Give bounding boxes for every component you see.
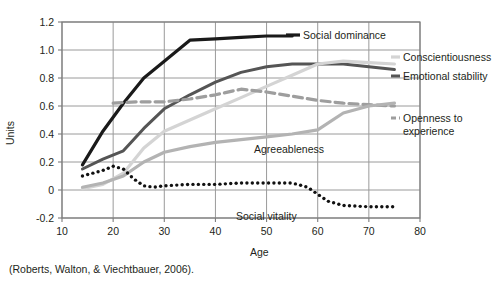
y-axis-title: Units bbox=[4, 121, 16, 145]
series-conscientiousness bbox=[82, 61, 394, 188]
social-vitality-label: Social vitality bbox=[236, 210, 297, 222]
figure-container: -0.200.20.40.60.81.01.2 1020304050607080… bbox=[0, 0, 498, 286]
series-annotation-emotional-stability: Emotional stability bbox=[391, 70, 488, 82]
x-tick-label: 60 bbox=[312, 225, 324, 237]
y-tick-label: 0.6 bbox=[39, 100, 54, 112]
y-tick-label: 1.0 bbox=[39, 44, 54, 56]
y-tick-label: 0.2 bbox=[39, 156, 54, 168]
x-tick-label: 20 bbox=[107, 225, 119, 237]
chart-canvas: -0.200.20.40.60.81.01.2 1020304050607080… bbox=[0, 0, 498, 286]
series-annotation-openness: Openness to experience bbox=[391, 112, 463, 137]
series-annotation-social-dominance: Social dominance bbox=[286, 29, 386, 41]
x-axis-tick-labels: 1020304050607080 bbox=[56, 225, 426, 237]
x-tick-label: 10 bbox=[56, 225, 68, 237]
series-annotation-social-vitality: Social vitality bbox=[236, 210, 297, 222]
x-tick-label: 70 bbox=[363, 225, 375, 237]
x-tick-label: 80 bbox=[414, 225, 426, 237]
conscientiousness-label: Conscientiousness bbox=[403, 51, 491, 63]
series-annotation-conscientiousness: Conscientiousness bbox=[391, 51, 491, 63]
x-tick-label: 50 bbox=[261, 225, 273, 237]
figure-citation: (Roberts, Walton, & Viechtbauer, 2006). bbox=[9, 263, 194, 275]
chart-gridlines bbox=[62, 22, 420, 218]
y-tick-label: 0.4 bbox=[39, 128, 54, 140]
openness-label-line2: experience bbox=[403, 125, 455, 137]
series-annotation-agreeableness: Agreeableness bbox=[254, 143, 324, 155]
x-axis-title: Age bbox=[250, 246, 269, 258]
series-emotional-stability bbox=[82, 64, 394, 169]
chart-tickmarks bbox=[58, 22, 420, 222]
y-tick-label: -0.2 bbox=[36, 212, 54, 224]
y-tick-label: 0.8 bbox=[39, 72, 54, 84]
social-dominance-label: Social dominance bbox=[303, 29, 386, 41]
emotional-stability-label: Emotional stability bbox=[403, 70, 488, 82]
openness-label-line1: Openness to bbox=[403, 112, 463, 124]
y-axis-tick-labels: -0.200.20.40.60.81.01.2 bbox=[36, 16, 54, 224]
agreeableness-label: Agreeableness bbox=[254, 143, 324, 155]
chart-plot-frame bbox=[62, 22, 420, 218]
x-tick-label: 30 bbox=[158, 225, 170, 237]
series-openness-to-experience bbox=[113, 89, 394, 106]
y-tick-label: 0 bbox=[48, 184, 54, 196]
x-tick-label: 40 bbox=[210, 225, 222, 237]
y-tick-label: 1.2 bbox=[39, 16, 54, 28]
chart-series-lines bbox=[81, 36, 395, 209]
